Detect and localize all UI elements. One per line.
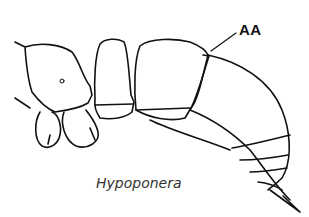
annotation-label-aa: AA	[239, 21, 262, 38]
genus-caption: Hypoponera	[96, 175, 182, 191]
gaster-segment-1	[135, 39, 208, 119]
annotation-leader-line	[211, 33, 236, 51]
coxa-2	[63, 110, 99, 147]
diagram-canvas: AA Hypoponera	[0, 0, 309, 217]
spiracle	[60, 79, 64, 83]
petiole-outline	[95, 39, 134, 119]
mesosoma-outline	[15, 42, 92, 112]
